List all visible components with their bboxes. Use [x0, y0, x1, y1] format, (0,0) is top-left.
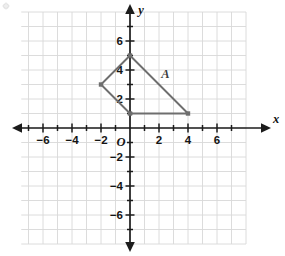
y-tick-label: −4 — [110, 180, 124, 192]
vertex-marker — [128, 53, 132, 57]
vertex-marker — [99, 82, 103, 86]
x-axis-label: x — [272, 112, 279, 126]
vertex-marker — [186, 111, 190, 115]
y-tick-label: 6 — [117, 35, 123, 47]
coordinate-plane-figure: −6−4−2246 642−2−4−6 O x y A — [0, 0, 285, 256]
y-axis-label: y — [136, 3, 144, 17]
y-tick-label: −2 — [110, 151, 123, 163]
origin-label: O — [116, 135, 125, 149]
x-tick-label: −2 — [94, 134, 107, 146]
vertex-marker — [128, 111, 132, 115]
x-tick-label: 6 — [214, 134, 220, 146]
x-tick-label: −6 — [36, 134, 49, 146]
x-tick-label: −4 — [65, 134, 79, 146]
x-tick-label: 2 — [156, 134, 162, 146]
x-tick-label: 4 — [185, 134, 192, 146]
shape-label-a: A — [160, 67, 169, 81]
y-tick-label: −6 — [110, 209, 123, 221]
shape-labels-layer: A — [160, 67, 169, 81]
